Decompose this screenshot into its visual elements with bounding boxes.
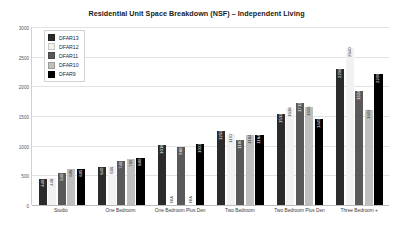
bar-slot: 1192 (227, 27, 235, 205)
chart-legend: DFAR13DFAR12DFAR11DFAR10DFAR9 (44, 30, 85, 82)
legend-item[interactable]: DFAR9 (48, 71, 79, 78)
bar-value-label: 1100 (238, 139, 242, 148)
bar-value-label: 656 (110, 167, 114, 174)
bar[interactable]: 1638 (286, 108, 294, 205)
bar[interactable]: 740 (117, 161, 125, 205)
bar-value-label: 769 (129, 160, 133, 167)
bar-slot: N/A (167, 27, 175, 205)
bar-slot: 1533 (277, 27, 285, 205)
bar-group: 640656740769800 (92, 27, 152, 205)
bar[interactable]: 1712 (296, 103, 304, 205)
legend-label: DFAR10 (59, 62, 79, 68)
bar-slot: 1638 (286, 27, 294, 205)
bar[interactable]: 1602 (365, 110, 373, 205)
bar-value-label: 1192 (229, 134, 233, 143)
bar-slot: 1924 (355, 27, 363, 205)
bar-slot: 2298 (336, 27, 344, 205)
bar-value-label: 1638 (288, 107, 292, 117)
bar-value-label: 1184 (248, 134, 252, 143)
y-axis-tick-label: 1000 (19, 144, 29, 149)
y-axis-tick-label: 3000 (19, 26, 29, 31)
bar[interactable]: 2298 (336, 69, 344, 205)
bar[interactable]: 1924 (355, 91, 363, 205)
bar-slot: 656 (108, 27, 116, 205)
legend-item[interactable]: DFAR10 (48, 62, 79, 69)
legend-item[interactable]: DFAR13 (48, 34, 79, 41)
legend-swatch-icon (48, 71, 55, 78)
bar-slot: 1018 (158, 27, 166, 205)
bar-value-label: 1712 (298, 103, 302, 113)
bar-slot: 1252 (217, 27, 225, 205)
legend-item[interactable]: DFAR11 (48, 52, 79, 59)
bar[interactable]: 1018 (158, 145, 166, 205)
bar[interactable]: 1184 (246, 135, 254, 205)
bar-value-label: 1924 (357, 90, 361, 100)
bar[interactable]: 1533 (277, 114, 285, 205)
legend-label: DFAR12 (59, 44, 79, 50)
bar-value-label: 1602 (367, 109, 371, 119)
bar[interactable]: 769 (127, 159, 135, 205)
bar-value-label: 440 (40, 179, 44, 186)
bar-value-label: 980 (179, 147, 183, 154)
bar-value-label: 800 (138, 158, 142, 165)
bar-slot: 769 (127, 27, 135, 205)
legend-item[interactable]: DFAR12 (48, 43, 79, 50)
legend-swatch-icon (48, 52, 55, 59)
bar[interactable]: 440 (39, 179, 47, 205)
bar-slot: 1712 (296, 27, 304, 205)
bar-value-label: 1184 (257, 134, 261, 143)
bar-slot: 1184 (255, 27, 263, 205)
plot-area: 050010001500200025003000 440448540606605… (31, 27, 389, 205)
bar[interactable]: 656 (108, 166, 116, 205)
bar-slot: 1602 (365, 27, 373, 205)
bar[interactable]: 540 (58, 173, 66, 205)
bar[interactable]: 1445 (315, 119, 323, 205)
legend-label: DFAR13 (59, 35, 79, 41)
bar-slot: 2209 (374, 27, 382, 205)
y-axis-tick-label: 2500 (19, 55, 29, 60)
gridline: 0 (32, 205, 389, 206)
legend-swatch-icon (48, 34, 55, 41)
x-axis-category-label: Two Bedroom (210, 208, 270, 213)
bar[interactable]: 1192 (227, 134, 235, 205)
bar[interactable]: 640 (98, 167, 106, 205)
bar[interactable]: 1655 (305, 107, 313, 205)
legend-label: DFAR11 (59, 53, 78, 59)
bar-value-label: 1533 (278, 113, 282, 123)
bar-value-label: 606 (69, 170, 73, 177)
bar-value-label: 1018 (159, 144, 163, 154)
bar-group: 22982640192416022209 (330, 27, 390, 205)
bar-slot: N/A (186, 27, 194, 205)
bar[interactable]: 980 (177, 147, 185, 205)
bar-groups: 4404485406066056406567407698001018N/A980… (32, 27, 389, 205)
y-axis-tick-label: 2000 (19, 85, 29, 90)
bar-value-label: 640 (100, 167, 104, 174)
bar-na-label: N/A (188, 196, 193, 203)
bar[interactable]: 1022 (196, 144, 204, 205)
bar[interactable]: 605 (77, 169, 85, 205)
bar-value-label: 1022 (198, 144, 202, 154)
x-axis-category-label: Three Bedroom + (329, 208, 389, 213)
bar-value-label: 1445 (317, 119, 321, 129)
bar[interactable]: 800 (136, 158, 144, 205)
chart-title: Residential Unit Space Breakdown (NSF) –… (0, 9, 393, 18)
bar-value-label: 2298 (338, 68, 342, 78)
bar-value-label: 1252 (219, 130, 223, 140)
bar-slot: 1445 (315, 27, 323, 205)
bar[interactable]: 1100 (236, 140, 244, 205)
bar[interactable]: 2640 (346, 48, 354, 205)
bar[interactable]: 606 (67, 169, 75, 205)
bar-value-label: 448 (50, 179, 54, 186)
bar-slot: 740 (117, 27, 125, 205)
bar[interactable]: 448 (48, 178, 56, 205)
bar-slot: 2640 (346, 27, 354, 205)
bar-value-label: 740 (119, 162, 123, 169)
bar[interactable]: 1252 (217, 131, 225, 205)
y-axis-tick-label: 0 (26, 204, 29, 209)
bar-slot: 1022 (196, 27, 204, 205)
legend-swatch-icon (48, 62, 55, 69)
bar[interactable]: 2209 (374, 74, 382, 205)
bar[interactable]: 1184 (255, 135, 263, 205)
bar-value-label: 2640 (348, 48, 352, 58)
bar-na-label: N/A (169, 196, 174, 203)
